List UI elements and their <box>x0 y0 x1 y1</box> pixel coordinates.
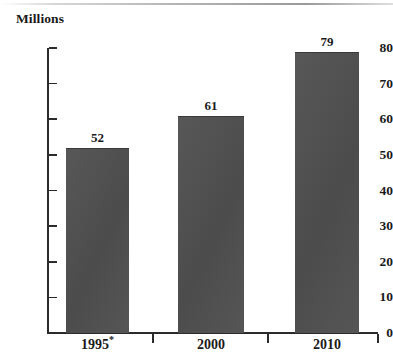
y-axis-title: Millions <box>16 11 64 27</box>
bar[interactable] <box>66 148 129 333</box>
bar-value-label: 79 <box>295 34 359 50</box>
y-tick-mark <box>49 225 57 227</box>
y-tick-mark <box>49 261 57 263</box>
bar-top-edge <box>295 52 359 54</box>
y-tick-mark <box>49 297 57 299</box>
y-tick-mark <box>49 190 57 192</box>
x-category-label: 1995* <box>44 337 151 353</box>
bar[interactable] <box>295 52 359 333</box>
bar-top-edge <box>178 116 244 118</box>
bar-top-edge <box>66 148 129 150</box>
y-tick-mark <box>49 47 57 49</box>
bar-value-label: 52 <box>66 130 129 146</box>
x-category-label: 2010 <box>273 337 381 353</box>
x-tick-mark <box>267 334 269 343</box>
bar-value-label: 61 <box>178 98 244 114</box>
bar-chart: Millions 01020304050607080 526179 1995*2… <box>0 0 393 356</box>
x-tick-mark <box>152 334 154 343</box>
y-tick-mark <box>49 83 57 85</box>
y-tick-mark <box>49 118 57 120</box>
y-tick-mark <box>49 154 57 156</box>
bar[interactable] <box>178 116 244 333</box>
x-category-label: 2000 <box>156 337 266 353</box>
